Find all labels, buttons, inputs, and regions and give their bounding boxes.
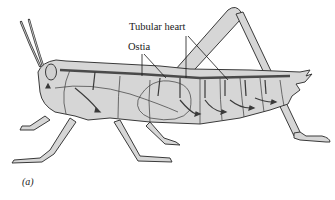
tubular-heart-label: Tubular heart [129, 22, 185, 33]
legs [12, 116, 180, 163]
panel-label: (a) [22, 177, 34, 187]
antennae [21, 20, 43, 66]
ostia-label: Ostia [128, 42, 150, 53]
